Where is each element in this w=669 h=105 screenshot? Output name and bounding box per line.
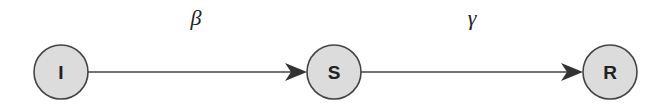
edge-i-to-s: β (88, 5, 307, 81)
flow-diagram: β γ I S R (0, 0, 669, 105)
rate-label-gamma: γ (468, 5, 478, 30)
node-label: S (328, 62, 341, 83)
edge-s-to-r: γ (361, 5, 583, 81)
node-i: I (34, 45, 88, 99)
node-s: S (307, 45, 361, 99)
rate-label-beta: β (190, 5, 202, 30)
node-r: R (583, 45, 637, 99)
node-label: I (58, 62, 63, 83)
node-label: R (603, 62, 617, 83)
